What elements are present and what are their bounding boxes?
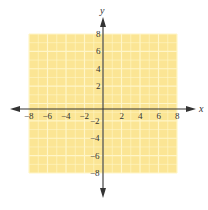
arrow-up-icon bbox=[100, 17, 106, 27]
x-tick-label: 2 bbox=[120, 111, 125, 121]
y-tick-label: 8 bbox=[96, 29, 101, 39]
y-tick-label: 6 bbox=[96, 46, 101, 56]
x-tick-label: −2 bbox=[80, 111, 90, 121]
x-axis-label: x bbox=[198, 103, 204, 114]
arrow-right-icon bbox=[186, 106, 196, 112]
y-tick-label: 4 bbox=[96, 64, 101, 74]
y-tick-label: −4 bbox=[90, 133, 100, 143]
x-tick-label: 8 bbox=[175, 111, 180, 121]
y-tick-label: −8 bbox=[90, 168, 100, 178]
y-tick-label: 2 bbox=[96, 81, 101, 91]
y-tick-label: −2 bbox=[90, 116, 100, 126]
arrow-down-icon bbox=[100, 188, 106, 198]
x-tick-label: −8 bbox=[24, 111, 34, 121]
arrow-left-icon bbox=[10, 106, 20, 112]
x-tick-label: −4 bbox=[61, 111, 71, 121]
x-tick-label: 6 bbox=[157, 111, 162, 121]
y-axis-label: y bbox=[99, 5, 105, 16]
x-tick-label: 4 bbox=[138, 111, 143, 121]
x-tick-label: −6 bbox=[43, 111, 53, 121]
coordinate-plane: −8−6−4−224688642−2−4−6−8 x y bbox=[0, 0, 208, 210]
y-tick-label: −6 bbox=[90, 151, 100, 161]
